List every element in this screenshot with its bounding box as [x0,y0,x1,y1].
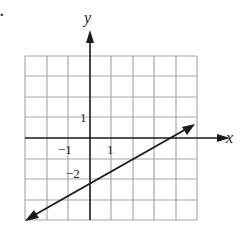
tick-label-y-pos1: 1 [80,110,87,125]
tick-label-x-neg1: −1 [58,142,72,157]
tick-label-x-pos1: 1 [107,142,114,157]
coordinate-graph: x y −1 1 1 −2 [0,0,242,231]
line-arrow-lower-left-icon [25,210,39,221]
x-axis-label: x [225,129,233,146]
tick-label-y-intercept: −2 [66,166,80,181]
y-axis-arrow-icon [86,30,94,43]
x-axis [25,134,230,142]
y-axis-label: y [82,9,92,27]
y-axis [86,30,94,220]
line-arrow-upper-right-icon [182,124,195,135]
